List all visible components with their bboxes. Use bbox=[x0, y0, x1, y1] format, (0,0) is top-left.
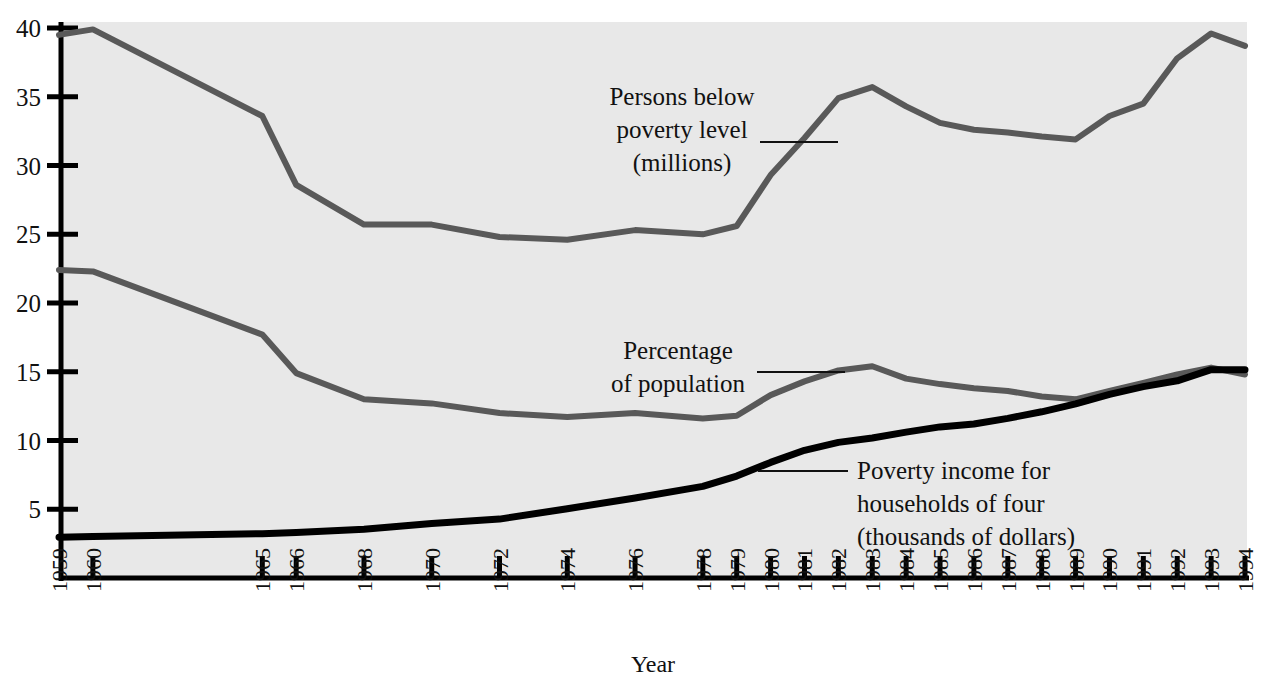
y-axis-tick-labels: 510152025303540 bbox=[16, 15, 41, 523]
x-tick-label-1985: 1985 bbox=[928, 548, 953, 592]
annotation-persons-line-2: poverty level bbox=[616, 116, 747, 143]
y-tick-label-20: 20 bbox=[16, 290, 41, 317]
x-tick-label-1991: 1991 bbox=[1131, 548, 1156, 592]
x-tick-label-1993: 1993 bbox=[1199, 548, 1224, 592]
x-tick-label-1970: 1970 bbox=[420, 548, 445, 592]
x-tick-label-1984: 1984 bbox=[894, 548, 919, 592]
y-tick-label-35: 35 bbox=[16, 84, 41, 111]
x-tick-label-1987: 1987 bbox=[996, 548, 1021, 592]
x-tick-label-1988: 1988 bbox=[1030, 548, 1055, 592]
x-tick-label-1979: 1979 bbox=[725, 548, 750, 592]
x-tick-label-1992: 1992 bbox=[1165, 548, 1190, 592]
y-tick-label-5: 5 bbox=[29, 496, 42, 523]
x-tick-label-1980: 1980 bbox=[759, 548, 784, 592]
poverty-line-chart: 510152025303540 195919601965196619681970… bbox=[0, 0, 1277, 683]
x-tick-label-1968: 1968 bbox=[352, 548, 377, 592]
x-tick-label-1959: 1959 bbox=[47, 548, 72, 592]
y-tick-label-30: 30 bbox=[16, 153, 41, 180]
x-tick-label-1983: 1983 bbox=[860, 548, 885, 592]
y-tick-label-10: 10 bbox=[16, 428, 41, 455]
annotation-poverty-income: Poverty income for households of four (t… bbox=[857, 457, 1075, 551]
x-tick-label-1989: 1989 bbox=[1064, 548, 1089, 592]
x-tick-label-1982: 1982 bbox=[826, 548, 851, 592]
x-tick-label-1965: 1965 bbox=[250, 548, 275, 592]
annotation-persons-line-3: (millions) bbox=[633, 149, 732, 177]
annotation-income-line-1: Poverty income for bbox=[857, 457, 1051, 484]
annotation-persons-line-1: Persons below bbox=[609, 83, 754, 110]
annotation-percentage-line-2: of population bbox=[611, 370, 746, 397]
y-tick-label-15: 15 bbox=[16, 359, 41, 386]
x-tick-label-1990: 1990 bbox=[1097, 548, 1122, 592]
x-tick-label-1994: 1994 bbox=[1233, 548, 1258, 592]
x-tick-label-1976: 1976 bbox=[623, 548, 648, 592]
poverty-statistics-figure: 510152025303540 195919601965196619681970… bbox=[0, 0, 1277, 683]
annotation-income-line-2: households of four bbox=[857, 490, 1045, 517]
x-tick-label-1978: 1978 bbox=[691, 548, 716, 592]
x-tick-label-1974: 1974 bbox=[555, 548, 580, 592]
annotation-percentage-line-1: Percentage bbox=[623, 337, 733, 364]
annotation-income-line-3: (thousands of dollars) bbox=[857, 523, 1075, 551]
x-tick-label-1972: 1972 bbox=[488, 548, 513, 592]
x-tick-label-1966: 1966 bbox=[284, 548, 309, 592]
x-tick-label-1986: 1986 bbox=[962, 548, 987, 592]
x-tick-label-1960: 1960 bbox=[81, 548, 106, 592]
y-tick-label-25: 25 bbox=[16, 221, 41, 248]
x-tick-label-1981: 1981 bbox=[792, 548, 817, 592]
x-axis-title: Year bbox=[631, 651, 675, 677]
y-tick-label-40: 40 bbox=[16, 15, 41, 42]
